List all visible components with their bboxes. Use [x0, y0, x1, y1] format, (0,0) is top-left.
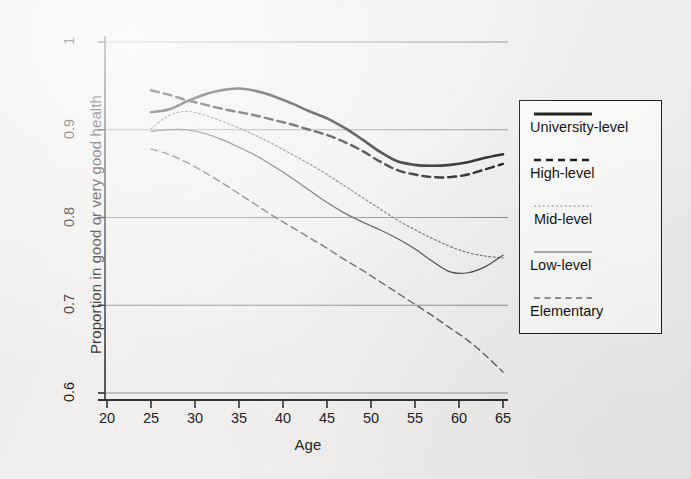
legend-label-elementary: Elementary [530, 303, 603, 319]
legend-key-mid [532, 200, 594, 208]
x-tick-label: 25 [131, 410, 171, 426]
y-tick-label: 0.9 [61, 109, 77, 149]
legend-item-elementary: Elementary [520, 287, 661, 333]
x-tick-label: 55 [395, 410, 435, 426]
y-tick-label: 0.8 [61, 197, 77, 237]
x-axis-title: Age [253, 436, 363, 453]
legend-item-university: University-level [520, 103, 661, 149]
x-tick-label: 65 [483, 410, 523, 426]
x-tick-label: 20 [87, 410, 127, 426]
axis-ticks [98, 42, 503, 408]
legend-label-university: University-level [530, 119, 628, 135]
y-axis-title: Proportion in good or very good health [87, 60, 104, 390]
legend-label-mid: Mid-level [534, 211, 592, 227]
x-tick-label: 60 [439, 410, 479, 426]
legend-key-university [532, 108, 594, 116]
chart-figure: Proportion in good or very good health A… [0, 0, 691, 479]
legend-item-low: Low-level [520, 241, 661, 287]
chart-legend: University-level High-level Mid-level Lo… [519, 100, 662, 334]
legend-item-high: High-level [520, 149, 661, 195]
legend-item-mid: Mid-level [520, 195, 661, 241]
x-tick-label: 35 [219, 410, 259, 426]
y-tick-label: 0.7 [61, 284, 77, 324]
curve-university-level [151, 88, 503, 165]
x-tick-label: 45 [307, 410, 347, 426]
data-curves [151, 88, 503, 371]
legend-label-low: Low-level [530, 257, 591, 273]
x-tick-label: 40 [263, 410, 303, 426]
y-tick-label: 0.6 [61, 372, 77, 412]
curve-elementary [151, 149, 503, 372]
legend-key-elementary [532, 292, 594, 300]
legend-key-high [532, 154, 594, 162]
x-tick-label: 30 [175, 410, 215, 426]
legend-key-low [532, 246, 594, 254]
legend-label-high: High-level [530, 165, 594, 181]
curve-low-level [151, 129, 503, 273]
y-tick-label: 1 [61, 21, 77, 61]
x-tick-label: 50 [351, 410, 391, 426]
